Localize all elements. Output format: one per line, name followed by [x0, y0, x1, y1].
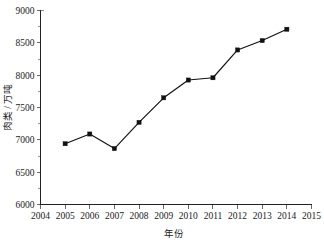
data-point-marker — [285, 27, 289, 31]
y-tick-label: 6000 — [16, 200, 35, 210]
x-tick-label: 2007 — [105, 211, 124, 221]
x-tick-label: 2014 — [277, 211, 296, 221]
x-tick-label: 2005 — [56, 211, 75, 221]
data-point-marker — [88, 132, 92, 136]
x-tick-label: 2004 — [31, 211, 50, 221]
data-point-marker — [260, 38, 264, 42]
data-point-marker — [137, 120, 141, 124]
data-point-marker — [162, 96, 166, 100]
y-axis-title: 肉类 / 万吨 — [2, 84, 13, 131]
chart-canvas: 6000650070007500800085009000 20042005200… — [0, 0, 324, 245]
x-tick-label: 2011 — [204, 211, 223, 221]
data-point-marker — [235, 48, 239, 52]
y-tick-label: 7000 — [16, 135, 35, 145]
y-tick-label: 6500 — [16, 168, 35, 178]
x-tick-label: 2009 — [154, 211, 173, 221]
line-chart: 6000650070007500800085009000 20042005200… — [0, 0, 324, 245]
x-tick-label: 2012 — [228, 211, 247, 221]
y-tick-label: 8500 — [16, 38, 35, 48]
x-tick-label: 2008 — [130, 211, 149, 221]
data-point-marker — [112, 146, 116, 150]
data-point-marker — [211, 76, 215, 80]
y-tick-label: 9000 — [16, 6, 35, 16]
y-tick-label: 7500 — [16, 103, 35, 113]
y-tick-label: 8000 — [16, 71, 35, 81]
x-axis-title: 年份 — [164, 228, 184, 239]
data-point-marker — [63, 142, 67, 146]
chart-background — [0, 0, 324, 245]
x-tick-label: 2010 — [179, 211, 198, 221]
data-point-marker — [186, 78, 190, 82]
x-tick-label: 2015 — [302, 211, 321, 221]
x-tick-label: 2006 — [80, 211, 99, 221]
x-tick-label: 2013 — [253, 211, 272, 221]
